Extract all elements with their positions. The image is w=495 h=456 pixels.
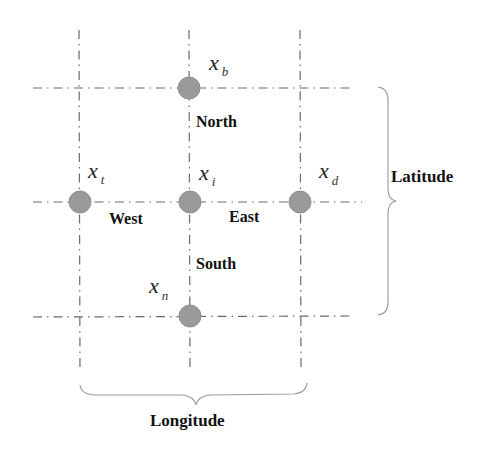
label-x-east: xd [318, 158, 339, 188]
longitude-brace [80, 383, 307, 405]
node-west [69, 191, 91, 213]
label-x-center: xi [198, 160, 216, 189]
label-x-west: xt [87, 158, 105, 187]
grid-diagram: xb xt xi xd xn North West East South Lat… [0, 0, 495, 456]
label-east: East [229, 208, 260, 225]
node-north [178, 77, 200, 99]
latitude-brace [378, 87, 396, 315]
node-south [179, 305, 201, 327]
node-center [179, 191, 201, 213]
label-longitude: Longitude [150, 411, 225, 430]
label-x-north: xb [208, 50, 229, 79]
label-x-south: xn [148, 273, 168, 303]
node-east [289, 191, 311, 213]
label-north: North [196, 113, 237, 130]
label-west: West [109, 210, 143, 227]
label-latitude: Latitude [391, 167, 454, 186]
label-south: South [196, 255, 236, 272]
